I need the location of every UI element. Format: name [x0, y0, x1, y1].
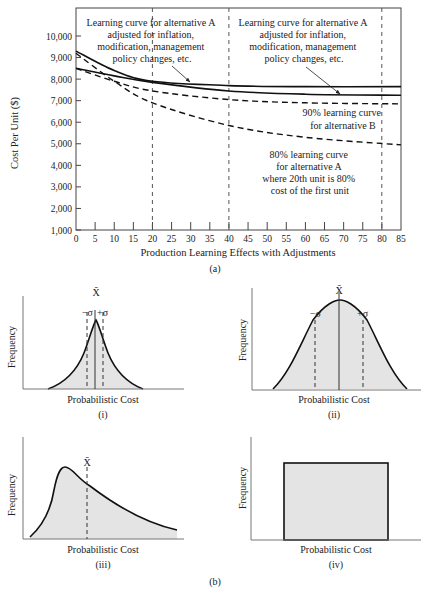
- distribution-i: X̄ −σ +σ Frequency Probabilistic Cost (i…: [6, 287, 184, 421]
- annotation-upper-right: Learning curve for alternative A adjuste…: [239, 17, 370, 94]
- panel-iii-label: (iii): [96, 559, 111, 571]
- cost-label: Probabilistic Cost: [67, 394, 139, 405]
- x-axis: 0510152025303540455055606570758085: [74, 222, 406, 244]
- figure: 1,0002,0003,0004,0005,0006,0007,0008,000…: [0, 0, 431, 597]
- y-tick-label: 3,000: [51, 182, 73, 192]
- svg-text:80% learning curve for: 80% learning curve for alternative A whe…: [262, 149, 357, 196]
- cost-label: Probabilistic Cost: [300, 544, 372, 555]
- x-tick-label: 40: [224, 234, 234, 244]
- panel-ii-label: (ii): [328, 409, 340, 421]
- x-tick-label: 20: [148, 234, 158, 244]
- y-tick-label: 4,000: [51, 161, 73, 171]
- y-tick-label: 10,000: [46, 32, 72, 42]
- x-tick-label: 35: [205, 234, 215, 244]
- adjusted-curve-a: [76, 68, 401, 95]
- x-tick-label: 25: [167, 234, 177, 244]
- distribution-iii: X̄ Frequency Probabilistic Cost (iii): [6, 437, 184, 571]
- x-tick-label: 30: [186, 234, 196, 244]
- cost-label: Probabilistic Cost: [67, 544, 139, 555]
- x-tick-label: 65: [320, 234, 330, 244]
- x-tick-label: 10: [109, 234, 119, 244]
- learning-curve-chart: 1,0002,0003,0004,0005,0006,0007,0008,000…: [9, 8, 406, 275]
- x-tick-label: 60: [301, 234, 311, 244]
- minus-sigma-label: −σ: [82, 307, 94, 318]
- y-tick-label: 8,000: [51, 75, 73, 85]
- x-tick-label: 55: [282, 234, 292, 244]
- x-tick-label: 5: [93, 234, 98, 244]
- mean-label: X̄: [83, 457, 91, 468]
- frequency-label: Frequency: [6, 326, 17, 368]
- x-tick-label: 75: [358, 234, 368, 244]
- panel-b-label: (b): [209, 576, 221, 588]
- panel-a-label: (a): [209, 263, 220, 275]
- frequency-label: Frequency: [237, 319, 248, 361]
- y-tick-label: 9,000: [51, 53, 73, 63]
- plus-sigma-label: +σ: [97, 307, 109, 318]
- annotation-80-percent-curve: 80% learning curve for alternative A whe…: [262, 149, 357, 196]
- frequency-label: Frequency: [237, 467, 248, 509]
- y-tick-label: 6,000: [51, 118, 73, 128]
- x-tick-label: 80: [377, 234, 387, 244]
- x-tick-label: 0: [74, 234, 79, 244]
- plus-sigma-label: +σ: [357, 308, 369, 319]
- distribution-ii: X̄ −σ +σ Frequency Probabilistic Cost (i…: [237, 285, 421, 421]
- x-tick-label: 50: [262, 234, 272, 244]
- svg-text:90% learning curve for: 90% learning curve for alternative B: [303, 107, 384, 131]
- x-tick-label: 45: [243, 234, 253, 244]
- svg-text:Learning curve for alternative: Learning curve for alternative A adjuste…: [87, 17, 218, 64]
- x-tick-label: 85: [396, 234, 406, 244]
- distribution-panels: X̄ −σ +σ Frequency Probabilistic Cost (i…: [6, 285, 421, 588]
- cost-label: Probabilistic Cost: [298, 394, 370, 405]
- y-tick-label: 2,000: [51, 204, 73, 214]
- svg-text:Learning curve for alternative: Learning curve for alternative A adjuste…: [239, 17, 370, 64]
- mean-label: X̄: [92, 287, 100, 298]
- distribution-iv: Frequency Probabilistic Cost (iv): [237, 437, 421, 571]
- frequency-label: Frequency: [6, 474, 17, 516]
- mean-label: X̄: [335, 285, 343, 296]
- y-tick-label: 5,000: [51, 139, 73, 149]
- y-tick-label: 1,000: [51, 226, 73, 236]
- panel-i-label: (i): [98, 409, 107, 421]
- x-tick-label: 15: [129, 234, 139, 244]
- panel-iv-label: (iv): [329, 559, 343, 571]
- y-axis-title: Cost Per Unit ($): [9, 96, 21, 169]
- x-axis-title: Production Learning Effects with Adjustm…: [140, 247, 335, 258]
- curve-80-percent-a: [76, 53, 401, 145]
- annotation-90-percent-curve: 90% learning curve for alternative B: [303, 107, 384, 131]
- y-tick-label: 7,000: [51, 96, 73, 106]
- x-tick-label: 70: [339, 234, 349, 244]
- minus-sigma-label: −σ: [310, 308, 322, 319]
